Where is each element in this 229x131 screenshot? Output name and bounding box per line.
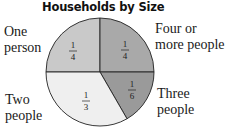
label-four-or-more: Four or more people xyxy=(155,21,225,53)
label-line: more people xyxy=(155,37,225,53)
label-line: One xyxy=(4,24,41,40)
label-two-people: Two people xyxy=(5,92,42,124)
svg-text:6: 6 xyxy=(130,91,135,101)
label-line: Two xyxy=(5,92,42,108)
label-one-person: One person xyxy=(4,24,41,56)
label-line: Three xyxy=(157,86,194,102)
label-line: person xyxy=(4,40,41,56)
svg-text:4: 4 xyxy=(71,52,76,62)
svg-text:3: 3 xyxy=(84,102,89,112)
svg-text:1: 1 xyxy=(71,40,76,50)
svg-text:1: 1 xyxy=(130,79,135,89)
label-line: Four or xyxy=(155,21,225,37)
svg-text:1: 1 xyxy=(84,90,89,100)
label-line: people xyxy=(157,102,194,118)
svg-text:4: 4 xyxy=(123,51,128,61)
label-three-people: Three people xyxy=(157,86,194,118)
svg-text:1: 1 xyxy=(123,39,128,49)
label-line: people xyxy=(5,108,42,124)
